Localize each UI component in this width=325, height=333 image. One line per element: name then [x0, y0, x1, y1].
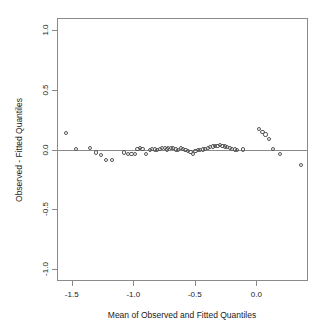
y-tick-label: 0.5 [41, 83, 50, 97]
data-point [235, 148, 239, 152]
data-point [64, 131, 68, 135]
data-point [299, 163, 303, 167]
y-axis-title: Observed - Fitted Quantiles [14, 98, 24, 202]
data-point [271, 147, 275, 151]
scatter-plot-figure: -1.5-1.0-0.50.0 1.00.50.0-0.5-1.0 Mean o… [0, 0, 325, 333]
data-point [140, 147, 144, 151]
data-point [267, 137, 271, 141]
data-point [88, 146, 92, 150]
y-tick-mark [52, 269, 57, 270]
data-point [278, 152, 282, 156]
y-tick-mark [52, 209, 57, 210]
x-tick-mark [195, 281, 196, 286]
data-point [104, 158, 108, 162]
data-point [99, 153, 103, 157]
x-axis-title: Mean of Observed and Fitted Quantiles [108, 310, 256, 320]
data-point [133, 152, 137, 156]
x-tick-mark [256, 281, 257, 286]
x-tick-label: -1.5 [65, 290, 79, 299]
y-tick-mark [52, 150, 57, 151]
data-point [94, 150, 98, 154]
y-tick-label: 0.0 [41, 143, 50, 157]
y-tick-label: -1.0 [41, 262, 50, 276]
y-tick-mark [52, 90, 57, 91]
data-point [191, 152, 195, 156]
data-point [110, 158, 114, 162]
x-tick-label: 0.0 [251, 290, 262, 299]
data-point [263, 132, 267, 136]
data-point [241, 147, 245, 151]
x-tick-mark [133, 281, 134, 286]
y-tick-mark [52, 30, 57, 31]
data-point [74, 147, 78, 151]
x-tick-label: -0.5 [188, 290, 202, 299]
data-point [144, 152, 148, 156]
x-tick-label: -1.0 [126, 290, 140, 299]
data-points-layer [0, 0, 325, 333]
y-tick-label: 1.0 [41, 23, 50, 37]
x-tick-mark [72, 281, 73, 286]
y-tick-label: -0.5 [41, 202, 50, 216]
